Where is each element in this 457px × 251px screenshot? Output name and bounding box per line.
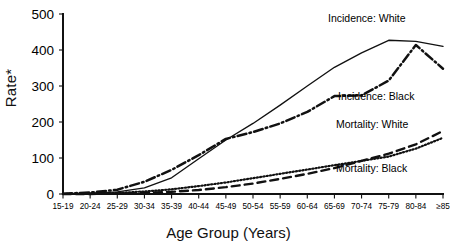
x-axis-tick-label: ≥85 xyxy=(436,202,450,211)
x-axis-tick-label: 75-79 xyxy=(378,202,399,211)
x-axis-tick-label: 40-44 xyxy=(188,202,209,211)
x-axis-tick-label: 35-39 xyxy=(161,202,182,211)
x-axis-tick-label: 20-24 xyxy=(80,202,101,211)
series-label: Incidence: Black xyxy=(338,90,415,102)
x-axis-tick-label: 80-84 xyxy=(405,202,426,211)
y-axis-tick-label: 100 xyxy=(31,151,54,166)
x-axis-tick-label: 70-74 xyxy=(351,202,372,211)
x-axis-tick-label: 25-29 xyxy=(107,202,128,211)
x-axis-tick-labels: 15-1920-2425-2930-3435-3940-4445-4950-54… xyxy=(53,202,451,211)
x-axis-tick-label: 45-49 xyxy=(215,202,236,211)
series-label: Mortality: Black xyxy=(336,162,408,174)
chart-container: 0100200300400500 15-1920-2425-2930-3435-… xyxy=(0,0,457,251)
y-axis-title-text: Rate* xyxy=(2,69,19,108)
y-axis-title: Rate* xyxy=(2,52,22,124)
x-axis-title: Age Group (Years) xyxy=(0,224,457,241)
series-label: Mortality: White xyxy=(336,118,409,130)
x-axis-tick-label: 30-34 xyxy=(134,202,155,211)
chart-plot-area: 0100200300400500 15-1920-2425-2930-3435-… xyxy=(0,0,457,251)
x-axis-tick-label: 60-64 xyxy=(297,202,318,211)
y-axis-tick-label: 500 xyxy=(31,7,54,22)
y-axis-tick-labels: 0100200300400500 xyxy=(31,7,54,202)
x-axis-tick-label: 50-54 xyxy=(243,202,264,211)
y-axis-tick-label: 300 xyxy=(31,79,54,94)
y-axis-tick-label: 400 xyxy=(31,43,54,58)
y-axis-tick-label: 200 xyxy=(31,115,54,130)
y-axis-tick-label: 0 xyxy=(46,187,54,202)
x-axis-tick-label: 65-69 xyxy=(324,202,345,211)
series-label: Incidence: White xyxy=(328,12,406,24)
x-axis-tick-label: 55-59 xyxy=(270,202,291,211)
x-axis-tick-label: 15-19 xyxy=(53,202,74,211)
